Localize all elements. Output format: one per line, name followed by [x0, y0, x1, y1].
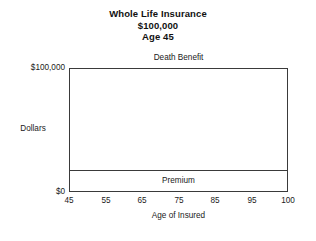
y-tick-label-0: $0: [1, 187, 65, 197]
premium-label: Premium: [70, 176, 287, 186]
chart-title-line-3: Age 45: [0, 31, 316, 43]
x-tick-label-65: 65: [137, 196, 146, 206]
x-tick-label-100: 100: [281, 196, 295, 206]
chart-figure: Whole Life Insurance $100,000 Age 45 Dea…: [0, 0, 316, 241]
chart-title-line-2: $100,000: [0, 20, 316, 32]
chart-title: Whole Life Insurance $100,000 Age 45: [0, 8, 316, 43]
y-tick-label-100000: $100,000: [1, 63, 65, 73]
chart-title-line-1: Whole Life Insurance: [0, 8, 316, 20]
plot-area: Premium: [69, 68, 288, 192]
x-tick-label-95: 95: [247, 196, 256, 206]
premium-region: Premium: [70, 170, 287, 191]
x-axis-label: Age of Insured: [69, 211, 288, 221]
y-axis-label: Dollars: [1, 124, 65, 134]
x-tick-label-75: 75: [174, 196, 183, 206]
x-tick-label-85: 85: [210, 196, 219, 206]
death-benefit-label: Death Benefit: [69, 53, 288, 63]
x-tick-label-55: 55: [101, 196, 110, 206]
x-tick-label-45: 45: [64, 196, 73, 206]
